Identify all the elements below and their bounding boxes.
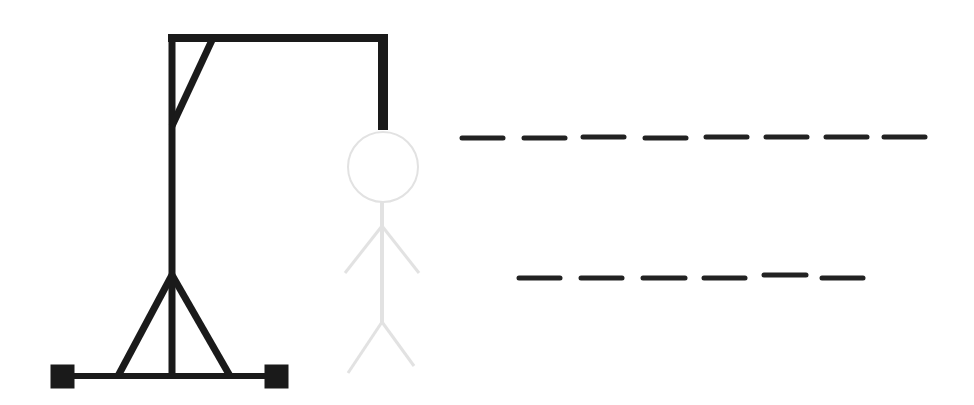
gallows-left-foot — [51, 365, 74, 388]
hangman-figure — [345, 132, 419, 373]
figure-left-arm — [345, 226, 382, 273]
gallows-brace — [172, 38, 213, 126]
gallows-right-foot — [265, 365, 288, 388]
figure-head — [348, 132, 418, 202]
hangman-board — [0, 0, 974, 405]
word-row-2 — [519, 275, 863, 278]
word-row-1 — [462, 137, 925, 138]
gallows-left-leg — [118, 275, 172, 376]
gallows-right-leg — [172, 275, 230, 376]
figure-right-leg — [382, 322, 414, 366]
figure-left-leg — [348, 322, 382, 373]
figure-right-arm — [382, 226, 419, 273]
gallows — [51, 34, 388, 388]
